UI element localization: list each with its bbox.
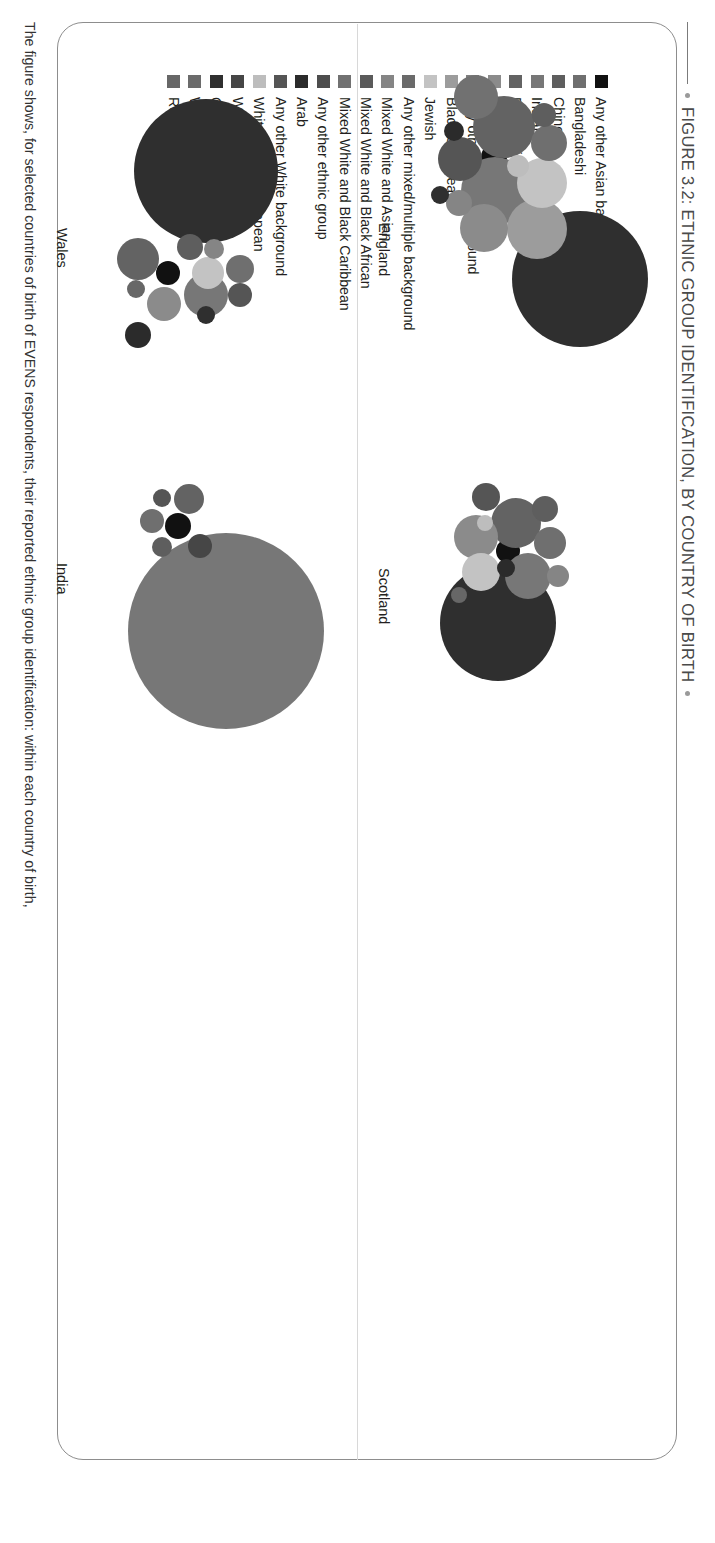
title-bullet-icon [685,93,690,98]
bubble[interactable] [128,533,324,729]
bubble[interactable] [152,537,172,557]
figure-stage: FIGURE 3.2: ETHNIC GROUP IDENTIFICATION,… [0,0,715,1543]
bubble-panel-india: India [56,23,676,1461]
figure-card: Any other Asian backgroundBangladeshiChi… [57,22,677,1460]
figure-caption: The figure shows, for selected countries… [20,22,39,1442]
title-bullet-end-icon [685,691,690,696]
bubble[interactable] [140,509,164,533]
bubble[interactable] [188,534,212,558]
figure-title-row: FIGURE 3.2: ETHNIC GROUP IDENTIFICATION,… [678,22,697,696]
bubble[interactable] [165,513,191,539]
panel-label-india: India [54,563,70,594]
bubble[interactable] [153,489,171,507]
bubble[interactable] [174,484,204,514]
title-rule [687,22,688,84]
page-title: FIGURE 3.2: ETHNIC GROUP IDENTIFICATION,… [678,107,697,682]
